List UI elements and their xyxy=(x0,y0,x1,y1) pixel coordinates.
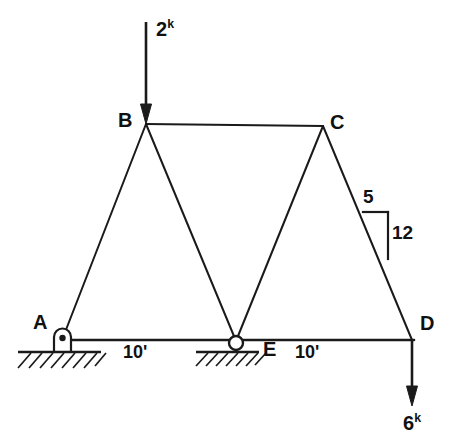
joint-label-A: A xyxy=(33,312,47,332)
member-E-C xyxy=(236,126,323,341)
load-unit-kip-6: k xyxy=(414,411,421,425)
slope-run-label: 5 xyxy=(363,187,374,206)
support-pin-A xyxy=(54,329,71,353)
joint-label-B: B xyxy=(118,110,132,130)
truss-drawing-canvas xyxy=(0,0,452,447)
load-arrow-at-D xyxy=(407,340,418,406)
load-label-2k: 2k xyxy=(156,18,174,39)
member-B-C xyxy=(146,124,323,126)
ground-hatch-E xyxy=(196,352,266,366)
member-B-E xyxy=(146,124,236,341)
pin-support-hinge-dot xyxy=(59,335,65,341)
load-magnitude-2: 2 xyxy=(156,18,167,40)
truss-members xyxy=(62,124,412,341)
joint-label-D: D xyxy=(420,313,434,333)
load-unit-kip-2: k xyxy=(167,17,174,31)
joint-label-C: C xyxy=(330,112,344,132)
slope-rise-label: 12 xyxy=(392,223,413,242)
load-magnitude-6: 6 xyxy=(403,412,414,434)
roller-support-circle xyxy=(229,336,243,350)
support-roller-E xyxy=(229,336,243,350)
hatch-strokes-E xyxy=(196,353,266,366)
load-arrow-head-D xyxy=(407,386,418,406)
joint-label-E: E xyxy=(263,339,276,359)
load-arrow-at-B xyxy=(141,22,152,124)
load-label-6k: 6k xyxy=(403,412,421,433)
hatch-strokes-A xyxy=(18,353,106,368)
load-arrow-head-B xyxy=(141,104,152,124)
truss-diagram-figure: A B C D E 2k 6k 10' 10' 5 12 xyxy=(0,0,452,447)
dimension-label-A-E: 10' xyxy=(123,343,147,361)
member-A-B xyxy=(62,124,146,340)
ground-hatch-A xyxy=(18,352,106,368)
dimension-label-E-D: 10' xyxy=(295,343,319,361)
